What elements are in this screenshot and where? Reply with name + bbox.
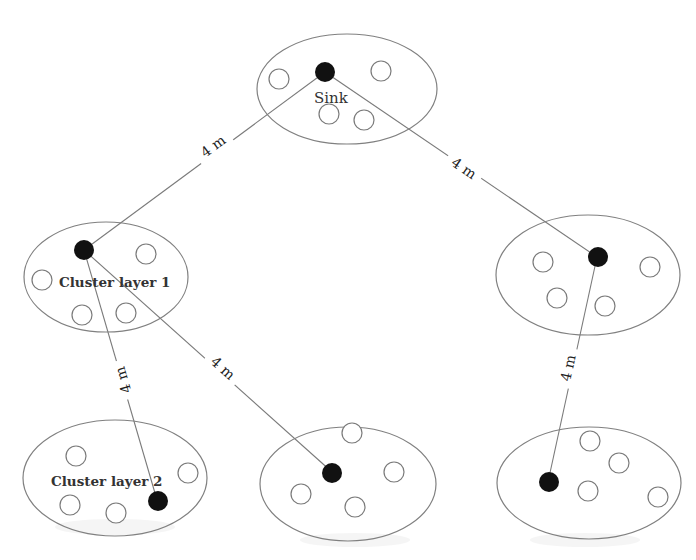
member-node <box>342 423 362 443</box>
cluster-head-node <box>322 463 342 483</box>
member-node <box>384 462 404 482</box>
member-node <box>580 431 600 451</box>
member-node <box>116 303 136 323</box>
cluster-bottom-center <box>260 423 436 547</box>
member-node <box>547 288 567 308</box>
member-node <box>72 305 92 325</box>
member-node <box>371 61 391 81</box>
member-node <box>32 270 52 290</box>
sink-cluster: Sink <box>257 34 437 144</box>
cluster-head-node <box>74 240 94 260</box>
cluster-head-node <box>539 472 559 492</box>
cluster-right-mid <box>496 215 680 335</box>
member-node <box>640 257 660 277</box>
member-node <box>345 497 365 517</box>
member-node <box>648 487 668 507</box>
member-node <box>60 495 80 515</box>
member-node <box>578 481 598 501</box>
member-node <box>609 453 629 473</box>
cluster-layer-1-label: Cluster layer 1 <box>59 274 170 290</box>
member-node <box>291 484 311 504</box>
network-diagram: Sink Cluster layer 1 Cluster layer 2 <box>0 0 696 560</box>
member-node <box>269 69 289 89</box>
member-node <box>106 503 126 523</box>
member-node <box>66 446 86 466</box>
cluster-head-node <box>588 247 608 267</box>
member-node <box>178 463 198 483</box>
cluster-layer-2-label: Cluster layer 2 <box>51 473 162 489</box>
sink-label: Sink <box>314 89 349 107</box>
distance-label: 4 m <box>112 365 135 395</box>
member-node <box>595 296 615 316</box>
sink-head-node <box>315 62 335 82</box>
cluster-layer-2: Cluster layer 2 <box>23 420 207 536</box>
member-node <box>136 244 156 264</box>
cluster-bottom-right <box>497 427 681 547</box>
cluster-head-node <box>148 491 168 511</box>
member-node <box>354 110 374 130</box>
member-node <box>319 104 339 124</box>
cluster-layer-1: Cluster layer 1 <box>24 222 188 332</box>
member-node <box>533 252 553 272</box>
